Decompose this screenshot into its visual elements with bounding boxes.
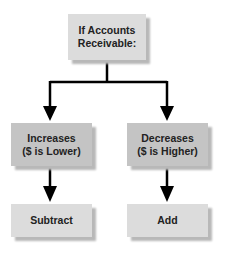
decreases-label-line1: Decreases (137, 132, 198, 145)
increases-label-line1: Increases (22, 132, 80, 145)
add-node: Add (127, 204, 208, 237)
decreases-label-line2: ($ is Higher) (137, 145, 198, 158)
root-label-line1: If Accounts (78, 24, 136, 37)
root-node: If Accounts Receivable: (68, 14, 146, 60)
increases-label-line2: ($ is Lower) (22, 145, 80, 158)
add-label: Add (157, 214, 177, 227)
subtract-label: Subtract (30, 214, 73, 227)
decreases-node: Decreases ($ is Higher) (127, 123, 208, 166)
root-label-line2: Receivable: (78, 37, 136, 50)
increases-node: Increases ($ is Lower) (11, 123, 92, 166)
subtract-node: Subtract (11, 204, 92, 237)
